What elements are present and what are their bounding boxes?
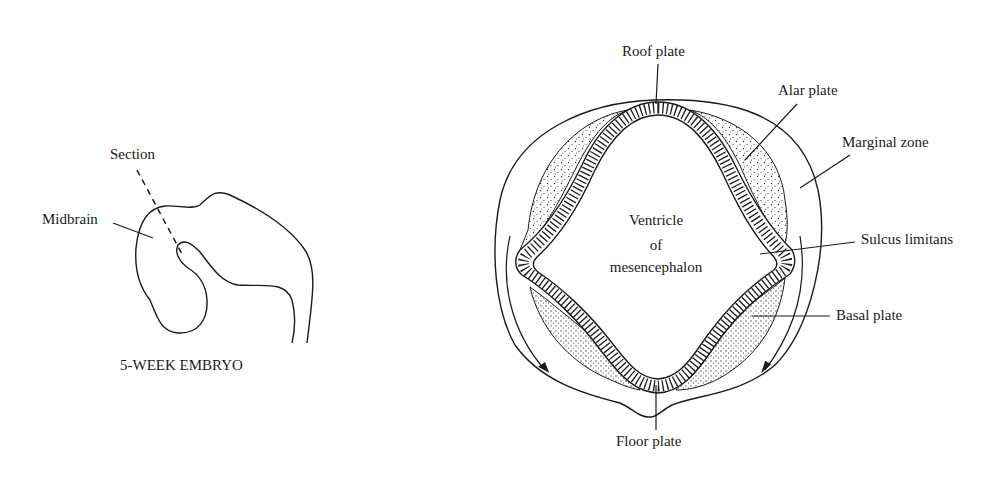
embryo-caption: 5-WEEK EMBRYO [120,357,243,373]
ventricle-label-line1: Ventricle [629,212,683,228]
floor-plate-label: Floor plate [616,433,682,449]
roof-plate-leader [656,64,658,104]
alar-plate-label: Alar plate [778,82,838,98]
sulcus-limitans-label: Sulcus limitans [861,231,953,247]
embryo-outline [136,193,313,343]
embryo-panel: Section Midbrain 5-WEEK EMBRYO [42,146,313,373]
section-label: Section [110,146,155,162]
basal-plate-label: Basal plate [836,307,903,323]
roof-plate-label: Roof plate [622,43,685,59]
midbrain-development-diagram: Section Midbrain 5-WEEK EMBRYO R [0,0,1002,504]
cross-section-panel: Roof plate Alar plate Marginal zone Sulc… [495,43,953,449]
midbrain-leader [113,223,153,238]
ventricle-label-line3: mesencephalon [610,259,703,275]
marginal-zone-label: Marginal zone [842,134,929,150]
section-line [137,170,183,256]
midbrain-label: Midbrain [42,211,98,227]
ventricle-label-line2: of [650,237,663,253]
